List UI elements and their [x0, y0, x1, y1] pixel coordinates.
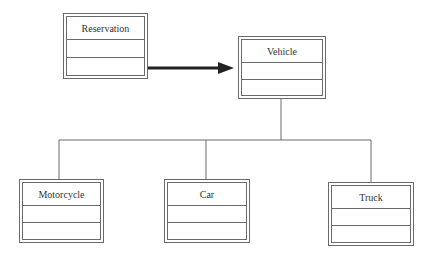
class-name: Car [168, 183, 246, 205]
class-reservation[interactable]: Reservation [63, 13, 148, 79]
methods-compartment [242, 79, 322, 96]
class-name: Vehicle [242, 40, 322, 62]
class-name: Reservation [67, 17, 144, 39]
attributes-compartment [168, 205, 246, 222]
methods-compartment [168, 222, 246, 239]
class-car[interactable]: Car [164, 179, 250, 243]
class-motorcycle[interactable]: Motorcycle [19, 179, 104, 243]
attributes-compartment [67, 39, 144, 57]
arrowhead-icon [218, 62, 234, 74]
class-vehicle[interactable]: Vehicle [238, 36, 326, 99]
class-name: Motorcycle [23, 183, 100, 205]
methods-compartment [23, 222, 100, 239]
attributes-compartment [332, 208, 410, 225]
methods-compartment [67, 57, 144, 75]
class-truck[interactable]: Truck [328, 182, 414, 246]
attributes-compartment [242, 62, 322, 79]
attributes-compartment [23, 205, 100, 222]
class-name: Truck [332, 186, 410, 208]
methods-compartment [332, 225, 410, 242]
diagram-canvas: Reservation Vehicle Motorcycle Car Truck [0, 0, 431, 260]
